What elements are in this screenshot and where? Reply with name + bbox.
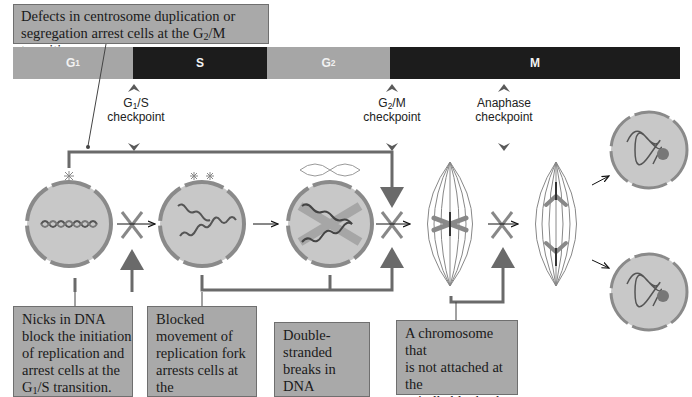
- cell-s-phase: [160, 182, 244, 266]
- centrosome-icon: [206, 172, 214, 180]
- daughter-cell-top: [611, 112, 687, 188]
- checkpoint-block-x-3: [492, 212, 512, 238]
- unattached-chromosome-feedback-path: [451, 250, 503, 302]
- spindle-poles-icon: [300, 164, 360, 176]
- double-strand-break-callout: Double-stranded breaks in DNA arrest cel…: [274, 322, 370, 397]
- checkpoint-block-x-2: [382, 212, 402, 238]
- centrosome-icon: [190, 172, 198, 180]
- checkpoint-block-x-1: [122, 212, 142, 238]
- anaphase-spindle: [536, 162, 577, 286]
- cell-g2-phase: [288, 182, 372, 266]
- checkpoint-chevrons: [128, 84, 510, 151]
- replication-fork-callout: Blocked movement of replication fork arr…: [147, 306, 257, 397]
- centrosome-icon: [64, 171, 74, 181]
- callout-leader-line: [88, 44, 106, 146]
- unattached-chromosome-callout: A chromosome that is not attached at the…: [396, 320, 518, 395]
- cell-g1: [27, 182, 111, 266]
- daughter-cell-bottom: [611, 254, 687, 330]
- dna-nicks-callout: Nicks in DNA block the initiation of rep…: [13, 306, 133, 397]
